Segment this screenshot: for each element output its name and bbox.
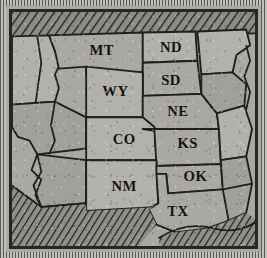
state-label-OK: OK xyxy=(184,168,208,184)
state-label-NE: NE xyxy=(167,103,188,119)
state-label-NM: NM xyxy=(112,178,137,194)
state-label-TX: TX xyxy=(167,203,188,219)
map-plate: MT ND SD WY NE CO KS NM OK TX xyxy=(9,9,258,249)
state-label-SD: SD xyxy=(161,72,181,88)
state-label-WY: WY xyxy=(102,83,128,99)
map-drawing: MT ND SD WY NE CO KS NM OK TX xyxy=(12,12,255,246)
map-figure: MT ND SD WY NE CO KS NM OK TX xyxy=(0,0,267,258)
state-label-KS: KS xyxy=(177,135,198,151)
state-missouri xyxy=(217,106,252,161)
state-label-ND: ND xyxy=(160,39,182,55)
state-label-CO: CO xyxy=(113,131,136,147)
state-label-MT: MT xyxy=(90,42,115,58)
